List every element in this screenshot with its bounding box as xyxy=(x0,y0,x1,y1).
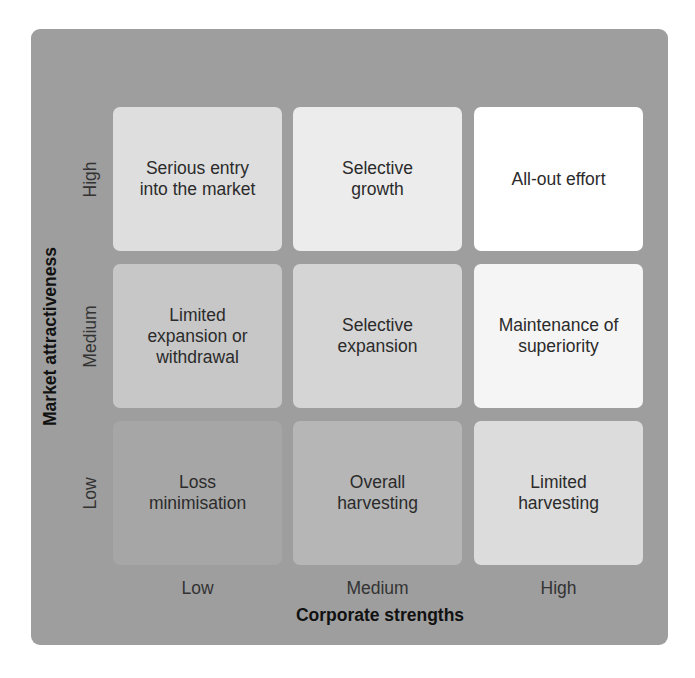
cell-high-medium: Selective growth xyxy=(293,107,462,251)
row-label-medium-text: Medium xyxy=(80,305,101,367)
col-label-low: Low xyxy=(113,578,282,599)
col-label-high: High xyxy=(474,578,643,599)
cell-low-high: Limited harvesting xyxy=(474,421,643,565)
cell-text: Limited expansion or withdrawal xyxy=(147,305,247,368)
row-label-medium: Medium xyxy=(70,264,110,408)
row-label-low: Low xyxy=(70,421,110,565)
cell-low-low: Loss minimisation xyxy=(113,421,282,565)
col-label-medium: Medium xyxy=(293,578,462,599)
x-axis-title: Corporate strengths xyxy=(200,605,560,626)
cell-text: All-out effort xyxy=(511,169,605,190)
cell-medium-low: Limited expansion or withdrawal xyxy=(113,264,282,408)
y-axis-title: Market attractiveness xyxy=(30,225,70,447)
cell-text: Serious entry into the market xyxy=(140,158,256,200)
cell-medium-high: Maintenance of superiority xyxy=(474,264,643,408)
cell-text: Limited harvesting xyxy=(518,472,599,514)
cell-text: Maintenance of superiority xyxy=(499,315,619,357)
cell-high-low: Serious entry into the market xyxy=(113,107,282,251)
cell-low-medium: Overall harvesting xyxy=(293,421,462,565)
cell-text: Selective expansion xyxy=(338,315,418,357)
y-axis-title-text: Market attractiveness xyxy=(40,247,61,426)
row-label-low-text: Low xyxy=(79,477,100,509)
cell-medium-medium: Selective expansion xyxy=(293,264,462,408)
row-label-high: High xyxy=(70,107,110,251)
cell-text: Loss minimisation xyxy=(149,472,246,514)
cell-high-high: All-out effort xyxy=(474,107,643,251)
cell-text: Selective growth xyxy=(342,158,413,200)
row-label-high-text: High xyxy=(80,161,101,197)
cell-text: Overall harvesting xyxy=(337,472,418,514)
